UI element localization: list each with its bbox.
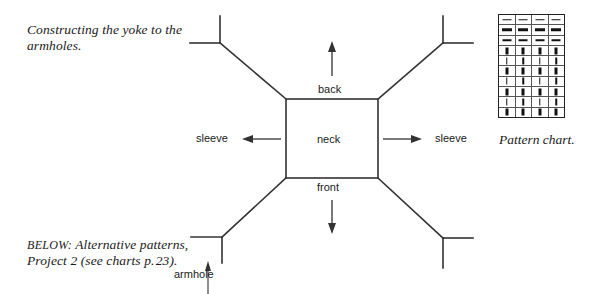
diagram-label-sleeve-left: sleeve [196,132,228,144]
sleeve-right-arrow [383,135,422,143]
yoke-slant-lower-right [378,178,443,238]
diagram-label-sleeve-right: sleeve [435,132,467,144]
diagram-label-back: back [318,83,341,95]
page-root: Constructing the yoke to the armholes. B… [0,0,597,294]
yoke-slant-upper-right [378,43,443,99]
yoke-construction-diagram [0,0,597,294]
diagram-label-armhole: armhole [174,268,214,280]
diagram-label-front: front [317,181,339,193]
yoke-slant-lower-left [222,178,286,237]
diagram-label-neck: neck [317,133,340,145]
back-arrow [328,41,336,76]
front-arrow [328,200,336,234]
sleeve-left-arrow [242,135,281,143]
yoke-slant-upper-left [220,43,286,99]
